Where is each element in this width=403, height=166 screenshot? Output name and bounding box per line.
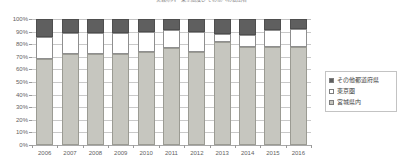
bar-2012[interactable] [188, 19, 205, 145]
chart-legend: その他都道府県東京圏宮城県内 [325, 71, 397, 112]
bar-segment[interactable] [112, 33, 129, 54]
legend-item-label: 東京圏 [337, 88, 355, 95]
stacked-bar-chart: 宮城県内・東京圏及びその他への転出者 100%90%80%70%60%50%40… [0, 0, 403, 166]
x-axis-tick-label: 2014 [235, 150, 260, 157]
x-axis-tick-label: 2013 [210, 150, 235, 157]
bar-segment[interactable] [264, 47, 281, 145]
bar-segment[interactable] [62, 19, 79, 33]
legend-item-label: 宮城県内 [337, 99, 361, 106]
y-axis-tick-mark [29, 82, 32, 83]
bar-2014[interactable] [239, 19, 256, 145]
x-axis-tick-mark [83, 145, 84, 148]
bar-segment[interactable] [163, 30, 180, 48]
bar-segment[interactable] [138, 52, 155, 145]
bar-2007[interactable] [62, 19, 79, 145]
bar-2010[interactable] [138, 19, 155, 145]
x-axis-tick-label: 2011 [159, 150, 184, 157]
y-axis-tick-label: 80% [16, 41, 28, 47]
bar-segment[interactable] [36, 37, 53, 60]
bar-segment[interactable] [264, 30, 281, 46]
x-axis-tick-label: 2015 [260, 150, 285, 157]
bar-segment[interactable] [163, 48, 180, 145]
bar-segment[interactable] [290, 19, 307, 29]
bar-segment[interactable] [239, 47, 256, 145]
y-axis-tick-mark [29, 32, 32, 33]
y-axis-tick-mark [29, 19, 32, 20]
plot-area: 100%90%80%70%60%50%40%30%20%10%0%2006200… [32, 19, 311, 145]
bar-segment[interactable] [163, 19, 180, 30]
x-axis-tick-mark [184, 145, 185, 148]
chart-title: 宮城県内・東京圏及びその他への転出者 [0, 0, 403, 3]
y-axis-tick-mark [29, 57, 32, 58]
x-axis-tick-mark [133, 145, 134, 148]
bar-segment[interactable] [214, 19, 231, 34]
x-axis-tick-label: 2016 [286, 150, 311, 157]
x-axis-tick-mark [260, 145, 261, 148]
x-axis-tick-label: 2012 [184, 150, 209, 157]
gridline [32, 145, 311, 146]
legend-item[interactable]: 宮城県内 [329, 97, 394, 108]
y-axis-tick-label: 50% [16, 79, 28, 85]
y-axis-tick-mark [29, 132, 32, 133]
x-axis-tick-mark [57, 145, 58, 148]
bar-segment[interactable] [36, 59, 53, 145]
bar-segment[interactable] [112, 19, 129, 33]
bar-2006[interactable] [36, 19, 53, 145]
dark-gray-swatch-icon [329, 78, 334, 83]
x-axis-tick-label: 2009 [108, 150, 133, 157]
x-axis-tick-mark [235, 145, 236, 148]
white-swatch-icon [329, 89, 334, 94]
y-axis-tick-label: 10% [16, 129, 28, 135]
bar-segment[interactable] [290, 29, 307, 47]
x-axis-tick-label: 2008 [83, 150, 108, 157]
bar-segment[interactable] [188, 32, 205, 52]
y-axis-tick-label: 0% [19, 142, 28, 148]
x-axis-tick-mark [210, 145, 211, 148]
bar-2013[interactable] [214, 19, 231, 145]
bar-segment[interactable] [239, 35, 256, 46]
bar-segment[interactable] [188, 52, 205, 145]
bar-segment[interactable] [138, 32, 155, 52]
legend-item-label: その他都道府県 [337, 77, 379, 84]
y-axis-tick-label: 70% [16, 54, 28, 60]
bar-segment[interactable] [62, 33, 79, 54]
bar-segment[interactable] [214, 34, 231, 42]
y-axis-tick-mark [29, 120, 32, 121]
x-axis-tick-mark [286, 145, 287, 148]
legend-item[interactable]: 東京圏 [329, 86, 394, 97]
y-axis-tick-mark [29, 95, 32, 96]
y-axis-tick-label: 30% [16, 104, 28, 110]
bar-segment[interactable] [214, 42, 231, 145]
bar-2016[interactable] [290, 19, 307, 145]
x-axis-tick-label: 2007 [57, 150, 82, 157]
y-axis-tick-mark [29, 69, 32, 70]
x-axis-tick-label: 2010 [133, 150, 158, 157]
bar-segment[interactable] [87, 19, 104, 33]
bar-segment[interactable] [112, 54, 129, 145]
y-axis-tick-label: 40% [16, 92, 28, 98]
bar-2015[interactable] [264, 19, 281, 145]
bar-segment[interactable] [36, 19, 53, 37]
bar-segment[interactable] [87, 33, 104, 54]
y-axis-tick-mark [29, 107, 32, 108]
x-axis-tick-mark [311, 145, 312, 148]
bar-segment[interactable] [87, 54, 104, 145]
x-axis-tick-mark [32, 145, 33, 148]
y-axis-tick-label: 100% [13, 16, 28, 22]
y-axis-tick-mark [29, 44, 32, 45]
y-axis-tick-label: 60% [16, 66, 28, 72]
bar-segment[interactable] [188, 19, 205, 32]
bar-2008[interactable] [87, 19, 104, 145]
x-axis-tick-label: 2006 [32, 150, 57, 157]
bar-segment[interactable] [239, 19, 256, 35]
bar-segment[interactable] [264, 19, 281, 30]
bar-segment[interactable] [290, 47, 307, 145]
y-axis-tick-label: 90% [16, 29, 28, 35]
light-gray-swatch-icon [329, 100, 334, 105]
bar-segment[interactable] [62, 54, 79, 145]
bar-2009[interactable] [112, 19, 129, 145]
bar-2011[interactable] [163, 19, 180, 145]
legend-item[interactable]: その他都道府県 [329, 75, 394, 86]
x-axis-tick-mark [159, 145, 160, 148]
bar-segment[interactable] [138, 19, 155, 32]
